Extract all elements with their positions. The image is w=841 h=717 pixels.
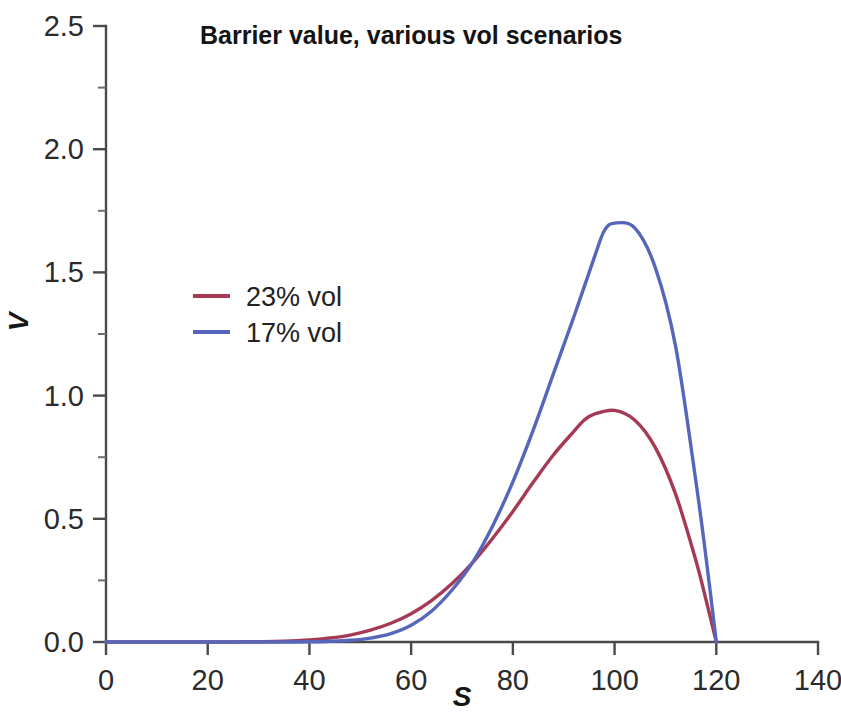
y-tick-label: 0.5 <box>44 503 84 535</box>
x-axis-ticks <box>106 642 818 655</box>
chart-title: Barrier value, various vol scenarios <box>200 21 622 49</box>
series-line <box>106 410 716 642</box>
y-tick-label: 1.0 <box>44 380 84 412</box>
y-axis-tick-labels: 0.00.51.01.52.02.5 <box>44 10 84 658</box>
chart-legend: 23% vol17% vol <box>193 282 342 348</box>
y-tick-label: 2.0 <box>44 133 84 165</box>
x-tick-label: 20 <box>192 664 224 696</box>
x-tick-label: 100 <box>590 664 638 696</box>
x-tick-label: 140 <box>794 664 841 696</box>
y-tick-label: 2.5 <box>44 10 84 42</box>
x-axis-title: S <box>453 681 472 712</box>
series-line <box>106 223 716 642</box>
x-tick-label: 60 <box>395 664 427 696</box>
y-tick-label: 1.5 <box>44 256 84 288</box>
y-axis-title: V <box>3 310 34 331</box>
legend-label: 23% vol <box>246 282 342 312</box>
barrier-value-line-chart: Barrier value, various vol scenarios 0.0… <box>0 0 841 717</box>
data-series-group <box>106 223 716 642</box>
x-tick-label: 0 <box>98 664 114 696</box>
x-tick-label: 40 <box>293 664 325 696</box>
y-axis-ticks <box>93 26 106 642</box>
y-tick-label: 0.0 <box>44 626 84 658</box>
x-tick-label: 120 <box>692 664 740 696</box>
x-tick-label: 80 <box>497 664 529 696</box>
chart-figure: Barrier value, various vol scenarios 0.0… <box>0 0 841 717</box>
legend-label: 17% vol <box>246 318 342 348</box>
